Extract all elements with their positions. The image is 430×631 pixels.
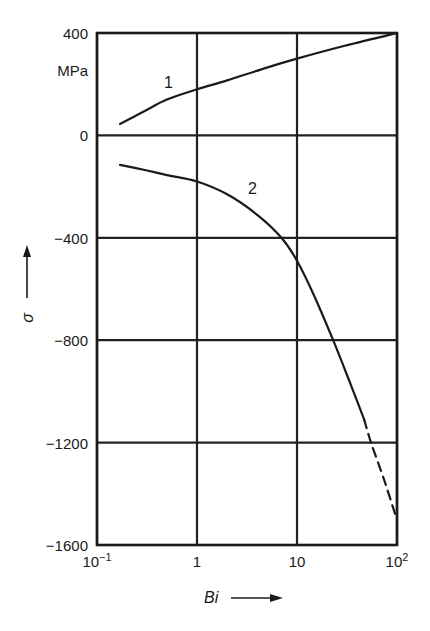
y-tick-labels: 4000−400−800−1200−1600: [46, 25, 88, 554]
curve-2-line: [120, 165, 364, 420]
arrow-right-head-icon: [270, 594, 283, 602]
curve-3-line: [364, 420, 395, 515]
curve-1-label: 1: [164, 74, 173, 91]
y-tick-label: −1200: [46, 435, 88, 452]
arrow-up-head-icon: [23, 245, 31, 257]
grid-lines: [97, 33, 397, 545]
y-tick-label: 0: [80, 127, 88, 144]
plot-frame: [97, 33, 397, 545]
bi-label: Bi: [204, 589, 219, 606]
x-tick-label: 1: [193, 553, 201, 570]
curve-1-line: [120, 33, 397, 124]
x-tick-label: 10−1: [82, 551, 111, 570]
y-axis-label: σ: [19, 245, 36, 323]
y-tick-label: 400: [63, 25, 88, 42]
y-tick-label: −1600: [46, 537, 88, 554]
x-tick-label: 102: [386, 551, 409, 570]
x-axis-label: Bi: [204, 589, 283, 606]
y-tick-label: −800: [54, 332, 88, 349]
plot-border: [97, 33, 397, 545]
chart: 4000−400−800−1200−1600 10−1110102 MPa 1 …: [0, 0, 430, 631]
y-tick-label: −400: [54, 230, 88, 247]
x-tick-labels: 10−1110102: [82, 551, 408, 570]
sigma-symbol: σ: [19, 312, 36, 323]
x-tick-label: 10: [289, 553, 306, 570]
curve-2-label: 2: [248, 180, 257, 197]
y-unit-label: MPa: [57, 62, 89, 79]
